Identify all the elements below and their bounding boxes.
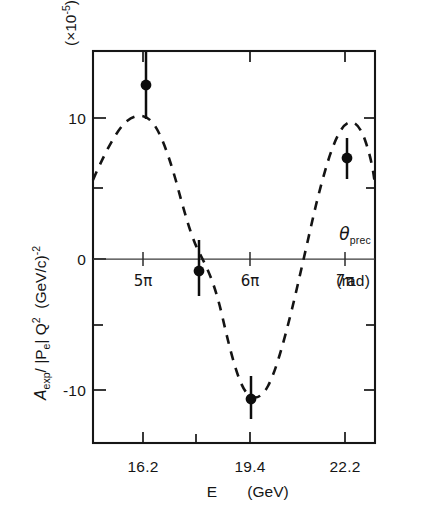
x-axis-bottom-ticks xyxy=(143,432,345,443)
y-scale-suffix: ) xyxy=(62,0,79,5)
y-scale-exponent: -5 xyxy=(60,5,72,14)
theta-subscript: prec xyxy=(350,234,371,246)
secondary-axis-title: θprec xyxy=(339,224,371,246)
zero-axis-line xyxy=(93,252,375,266)
marker-3 xyxy=(246,394,257,405)
x-axis-tick-labels: 16.2 19.4 22.2 xyxy=(128,458,361,475)
y-title-mid2: | Q xyxy=(32,323,49,343)
x-axis-title: E (GeV) xyxy=(207,483,289,500)
marker-1 xyxy=(141,80,152,91)
data-point-4 xyxy=(342,138,353,179)
x-title-E: E xyxy=(207,483,217,500)
svg-text:θprec: θprec xyxy=(339,224,371,246)
y-tick-label-0: 0 xyxy=(77,251,86,268)
y-title-mid: / |P xyxy=(32,349,49,372)
data-point-2 xyxy=(194,240,205,296)
x-tick-label-19-4: 19.4 xyxy=(235,458,266,475)
svg-text:Aexp/ |Pe| Q2 (GeV/c)-2: Aexp/ |Pe| Q2 (GeV/c)-2 xyxy=(30,246,52,401)
y-tick-label-neg10: -10 xyxy=(63,382,86,399)
fit-curve-dashed xyxy=(93,116,375,398)
secondary-axis-tick-labels: 5π 6π 7π (rad) xyxy=(134,272,370,290)
y-axis-scale-label: (×10-5) xyxy=(60,0,79,46)
secondary-tick-label-6pi: 6π xyxy=(241,272,260,290)
plot-border xyxy=(93,51,375,443)
svg-text:(×10-5): (×10-5) xyxy=(60,0,79,46)
secondary-axis-units-label: (rad) xyxy=(336,272,370,289)
secondary-tick-label-5pi: 5π xyxy=(134,272,153,290)
x-tick-label-22-2: 22.2 xyxy=(330,458,361,475)
theta-symbol: θ xyxy=(339,224,350,244)
y-axis-minor-ticks xyxy=(93,188,103,325)
x-title-units: (GeV) xyxy=(247,483,288,500)
plot-frame xyxy=(93,51,375,443)
y-axis-title: Aexp/ |Pe| Q2 (GeV/c)-2 xyxy=(30,246,52,401)
y-title-units-exp: -2 xyxy=(30,246,42,255)
data-point-1 xyxy=(141,52,152,119)
y-tick-label-10: 10 xyxy=(68,110,86,127)
figure-container: 10 0 -10 (×10-5) Aexp/ |Pe| Q2 (GeV/c)-2… xyxy=(0,0,436,523)
y-scale-prefix: (×10 xyxy=(62,14,79,46)
x-axis-top-ticks xyxy=(143,51,345,62)
fit-curve-group xyxy=(93,116,375,398)
marker-4 xyxy=(342,153,353,164)
y-title-A: A xyxy=(32,389,50,401)
scatter-plot-svg: 10 0 -10 (×10-5) Aexp/ |Pe| Q2 (GeV/c)-2… xyxy=(0,0,436,523)
marker-2 xyxy=(194,266,205,277)
y-axis-tick-labels: 10 0 -10 xyxy=(63,110,86,399)
data-point-3 xyxy=(246,376,257,419)
y-title-sub-exp: exp xyxy=(40,372,52,389)
y-title-units: (GeV/c) xyxy=(32,255,49,308)
data-points-group xyxy=(141,52,353,419)
x-tick-label-16-2: 16.2 xyxy=(128,458,159,475)
